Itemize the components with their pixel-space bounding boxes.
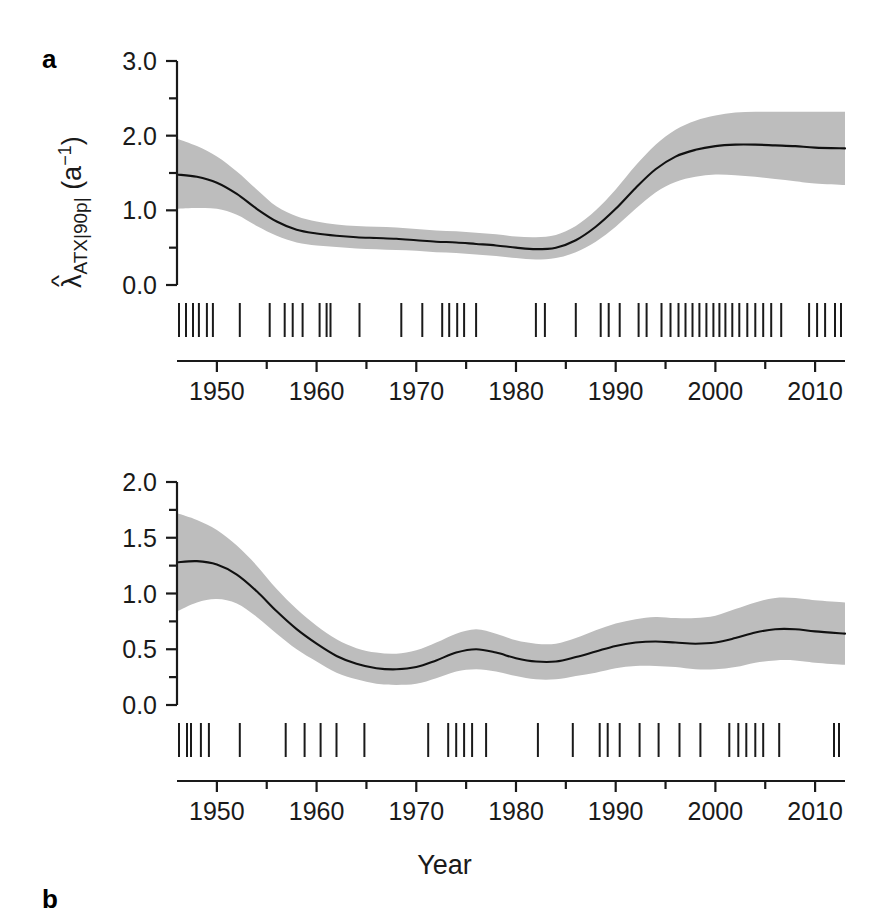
lambda-hat-a: ^λ (59, 275, 86, 289)
panel-a-plot: 0.01.02.03.01950196019701980199020002010 (0, 0, 889, 430)
y-tick-label-b: 1.5 (122, 524, 157, 552)
y-axis-unit-open-a: (a (57, 166, 87, 198)
y-tick-label-a: 3.0 (122, 47, 157, 75)
x-tick-label-b: 1960 (289, 797, 345, 825)
y-tick-label-a: 1.0 (122, 196, 157, 224)
y-tick-label-b: 2.0 (122, 468, 157, 496)
y-axis-unit-close-a: ) (57, 136, 87, 145)
x-tick-label-a: 1990 (588, 377, 644, 405)
panel-a: 0.01.02.03.01950196019701980199020002010… (0, 0, 889, 430)
x-tick-label-b: 2000 (688, 797, 744, 825)
x-tick-label-b: 1950 (189, 797, 245, 825)
y-tick-label-b: 0.0 (122, 691, 157, 719)
figure-root: 0.01.02.03.01950196019701980199020002010… (0, 0, 889, 914)
x-axis-title: Year (0, 852, 889, 879)
panel-a-letter: a (42, 46, 56, 72)
x-tick-label-a: 1950 (189, 377, 245, 405)
y-tick-label-b: 0.5 (122, 635, 157, 663)
x-tick-label-a: 1970 (388, 377, 444, 405)
x-tick-label-b: 2010 (787, 797, 843, 825)
x-tick-label-a: 2000 (688, 377, 744, 405)
hat-accent-a: ^ (48, 275, 69, 287)
x-tick-label-a: 1960 (289, 377, 345, 405)
y-axis-unit-exponent-a: −1 (55, 145, 75, 166)
y-tick-label-a: 0.0 (122, 271, 157, 299)
x-tick-label-a: 2010 (787, 377, 843, 405)
panel-b-plot: 0.00.51.01.52.01950196019701980199020002… (0, 420, 889, 914)
panel-b: 0.00.51.01.52.01950196019701980199020002… (0, 420, 889, 914)
y-tick-label-b: 1.0 (122, 580, 157, 608)
confidence-band-a (177, 112, 845, 260)
x-tick-label-b: 1990 (588, 797, 644, 825)
x-tick-label-a: 1980 (488, 377, 544, 405)
y-axis-subscript-a: ATX|90p| (70, 197, 91, 274)
x-tick-label-b: 1980 (488, 797, 544, 825)
confidence-band-b (177, 513, 845, 685)
panel-b-letter: b (42, 886, 58, 912)
panel-a-content: 0.01.02.03.01950196019701980199020002010 (122, 47, 845, 405)
panel-a-y-axis-title: ^λATX|90p| (a−1) (56, 136, 90, 288)
x-tick-label-b: 1970 (388, 797, 444, 825)
y-tick-label-a: 2.0 (122, 122, 157, 150)
panel-b-content: 0.00.51.01.52.01950196019701980199020002… (122, 468, 845, 825)
